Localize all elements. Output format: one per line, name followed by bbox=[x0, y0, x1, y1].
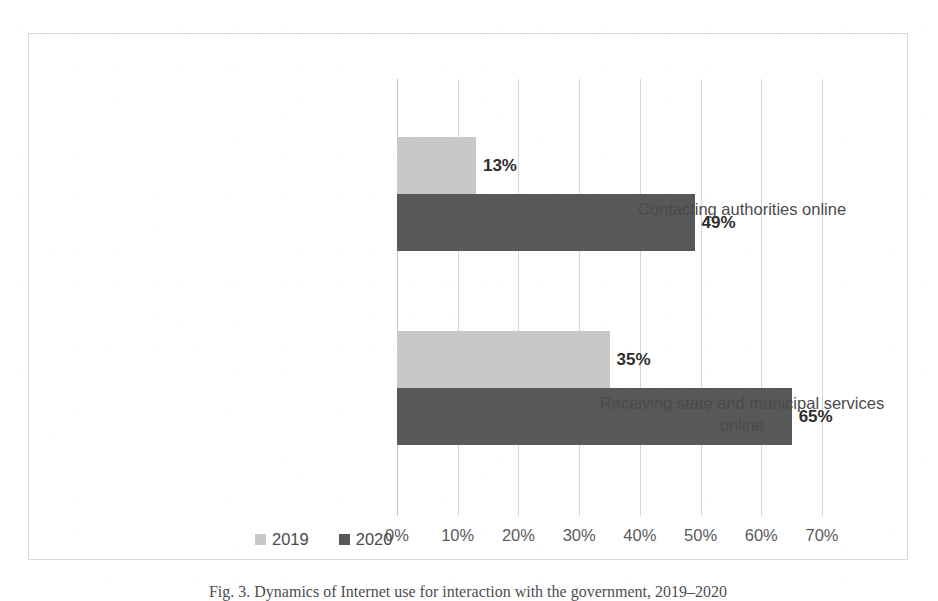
x-tick-label: 30% bbox=[563, 526, 596, 545]
x-tick-label: 40% bbox=[623, 526, 656, 545]
chart-legend: 20192020 bbox=[255, 530, 392, 549]
legend-swatch-icon bbox=[255, 534, 266, 545]
category-label: Contacting authorities online bbox=[577, 198, 907, 220]
category-label: Receiving state and municipal serviceson… bbox=[577, 392, 907, 436]
legend-label: 2019 bbox=[272, 530, 309, 549]
gridline bbox=[822, 79, 823, 516]
legend-swatch-icon bbox=[339, 534, 350, 545]
gridline bbox=[640, 79, 641, 516]
bar-2019-0 bbox=[397, 137, 476, 194]
category-label-line: Receiving state and municipal services bbox=[577, 392, 907, 414]
x-tick-label: 10% bbox=[441, 526, 474, 545]
category-label-line: Contacting authorities online bbox=[577, 198, 907, 220]
x-tick-label: 60% bbox=[745, 526, 778, 545]
gridline bbox=[761, 79, 762, 516]
x-tick-label: 70% bbox=[805, 526, 838, 545]
gridline bbox=[518, 79, 519, 516]
bar-value-label: 35% bbox=[610, 331, 651, 388]
legend-label: 2020 bbox=[356, 530, 393, 549]
gridline bbox=[579, 79, 580, 516]
chart-plot-area: 13%49%35%65% bbox=[397, 79, 822, 516]
bar-2019-1 bbox=[397, 331, 610, 388]
legend-item-2019[interactable]: 2019 bbox=[255, 530, 309, 549]
x-tick-label: 50% bbox=[684, 526, 717, 545]
figure-caption: Fig. 3. Dynamics of Internet use for int… bbox=[28, 583, 908, 601]
category-label-line: online bbox=[577, 414, 907, 436]
figure-frame: 13%49%35%65% Contacting authorities onli… bbox=[28, 33, 908, 560]
bar-value-label: 13% bbox=[476, 137, 517, 194]
gridline bbox=[701, 79, 702, 516]
x-axis-tick-labels: 0%10%20%30%40%50%60%70% bbox=[397, 526, 822, 550]
legend-item-2020[interactable]: 2020 bbox=[339, 530, 393, 549]
x-tick-label: 20% bbox=[502, 526, 535, 545]
